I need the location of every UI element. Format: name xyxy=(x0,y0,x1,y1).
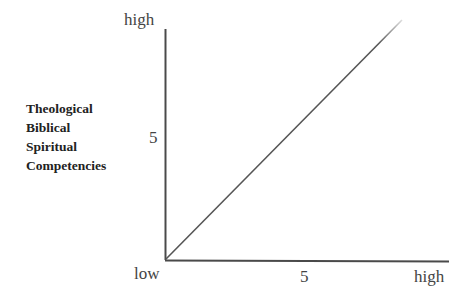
y-label-line-2: Biblical xyxy=(26,118,106,137)
y-tick-high: high xyxy=(124,10,154,30)
origin-label: low xyxy=(134,264,160,284)
x-tick-high: high xyxy=(414,267,444,287)
y-tick-5: 5 xyxy=(149,128,158,148)
y-label-line-3: Spiritual xyxy=(26,137,106,156)
y-label-line-4: Competencies xyxy=(26,156,106,175)
y-axis-label: Theological Biblical Spiritual Competenc… xyxy=(26,99,106,175)
y-label-line-1: Theological xyxy=(26,99,106,118)
diagonal-line xyxy=(166,20,402,259)
x-tick-5: 5 xyxy=(300,267,309,287)
x-axis xyxy=(165,261,449,262)
